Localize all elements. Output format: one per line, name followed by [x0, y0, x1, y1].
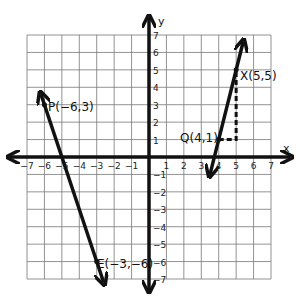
- x-tick-label: −2: [108, 161, 121, 171]
- x-tick-label: −6: [38, 161, 52, 171]
- point-label-x: X(5,5): [240, 69, 277, 83]
- y-tick-label: −2: [153, 188, 166, 198]
- y-tick-label: 2: [153, 118, 159, 128]
- y-tick-label: −6: [153, 258, 167, 268]
- data-point: [42, 102, 47, 107]
- coordinate-plane: −7−6−5−4−3−2−112345677654321−1−2−3−4−5−6…: [0, 0, 300, 301]
- data-point: [234, 67, 239, 72]
- y-tick-label: −1: [153, 170, 166, 180]
- x-tick-label: 5: [233, 161, 239, 171]
- point-label-q: Q(4,1): [180, 131, 218, 145]
- point-label-p: P(−6,3): [48, 100, 94, 114]
- plotted-line: [210, 42, 243, 174]
- y-tick-label: 6: [153, 48, 159, 58]
- y-tick-label: 5: [153, 66, 159, 76]
- x-tick-label: 3: [198, 161, 204, 171]
- y-tick-label: 3: [153, 101, 159, 111]
- x-axis-label: x: [283, 142, 290, 155]
- y-tick-label: −3: [153, 205, 166, 215]
- x-tick-label: 7: [268, 161, 274, 171]
- x-tick-label: −3: [90, 161, 103, 171]
- y-tick-label: 1: [153, 136, 159, 146]
- y-tick-label: −4: [153, 223, 167, 233]
- y-axis-label: y: [158, 15, 165, 28]
- y-tick-label: 4: [153, 83, 159, 93]
- axes: [10, 18, 290, 290]
- x-tick-label: −1: [125, 161, 138, 171]
- y-tick-label: −7: [153, 275, 166, 285]
- y-tick-label: 7: [153, 31, 159, 41]
- x-tick-label: 6: [251, 161, 257, 171]
- x-tick-label: −7: [20, 161, 33, 171]
- x-tick-label: 4: [216, 161, 222, 171]
- x-tick-label: −4: [73, 161, 87, 171]
- y-tick-label: −5: [153, 240, 166, 250]
- x-tick-label: 2: [181, 161, 187, 171]
- point-label-e: E(−3,−6): [97, 257, 153, 271]
- plotted-lines: [41, 42, 243, 283]
